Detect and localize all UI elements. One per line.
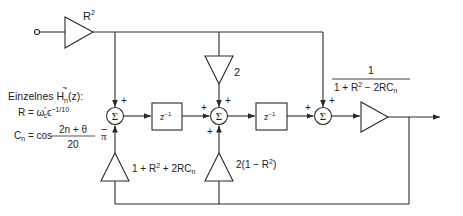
summer-1-top-sign: + xyxy=(121,95,127,106)
input-gain-amplifier: R2 xyxy=(65,9,95,48)
feedback-bus-wire xyxy=(115,181,409,204)
svg-text:1: 1 xyxy=(368,64,374,76)
gain-2-label: 2 xyxy=(234,66,240,78)
feedback-gain-left-amplifier: 1 + R2 + 2RCn xyxy=(101,126,196,182)
svg-text:Σ: Σ xyxy=(320,110,326,122)
input-gain-label: R2 xyxy=(83,9,95,22)
svg-text:+: + xyxy=(305,102,311,113)
svg-text:Σ: Σ xyxy=(112,110,118,122)
feedback-gain-middle-amplifier: 2(1 − R2) xyxy=(205,126,276,182)
feedback-gain-middle-label: 2(1 − R2) xyxy=(236,158,276,170)
summer-3: Σ + + xyxy=(305,95,335,125)
delay-block-2: z−1 xyxy=(256,103,287,130)
svg-text:π: π xyxy=(101,130,107,142)
output-gain-amplifier xyxy=(361,102,388,132)
top-bus-wire xyxy=(93,32,323,107)
svg-text:+: + xyxy=(201,102,207,113)
tilde-mark: ~ xyxy=(62,83,67,93)
legend-heading: Einzelnes Hn(z): xyxy=(8,90,83,104)
svg-text:+: + xyxy=(329,95,335,106)
svg-text:+: + xyxy=(225,95,231,106)
svg-text:Σ: Σ xyxy=(216,110,222,122)
delay-block-1: z−1 xyxy=(152,103,182,130)
svg-text:+: + xyxy=(207,126,213,137)
output-gain-label: 1 1 + R2 − 2RCn xyxy=(332,64,410,94)
svg-text:2n + θ: 2n + θ xyxy=(59,124,88,135)
signal-flow-diagram: R2 2 Σ + − z−1 Σ + + + z−1 xyxy=(0,0,463,216)
feedback-gain-left-label: 1 + R2 + 2RCn xyxy=(132,162,196,175)
output-wire xyxy=(388,117,440,204)
svg-text:20: 20 xyxy=(67,139,79,150)
svg-text:Cn = cos: Cn = cos xyxy=(14,130,52,142)
svg-text:1 + R2 − 2RCn: 1 + R2 − 2RCn xyxy=(334,81,398,94)
gain-2-amplifier: 2 xyxy=(205,56,240,107)
input-terminal xyxy=(35,30,66,35)
legend-equations: Einzelnes Hn(z): ~ R = ω′cϵ−1/10 Cn = co… xyxy=(8,83,107,150)
r-equation: R = ω′cϵ−1/10 xyxy=(18,106,69,119)
summer-1: Σ + − xyxy=(101,95,127,135)
c-equation: Cn = cos 2n + θ 20 π xyxy=(14,124,107,150)
